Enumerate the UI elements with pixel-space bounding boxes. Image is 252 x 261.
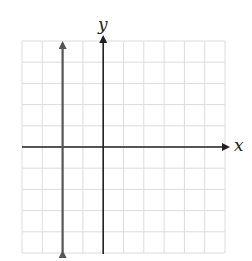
y-axis-label: y: [97, 14, 108, 34]
x-axis-label: x: [234, 135, 244, 155]
coordinate-plane: x y: [0, 0, 252, 261]
